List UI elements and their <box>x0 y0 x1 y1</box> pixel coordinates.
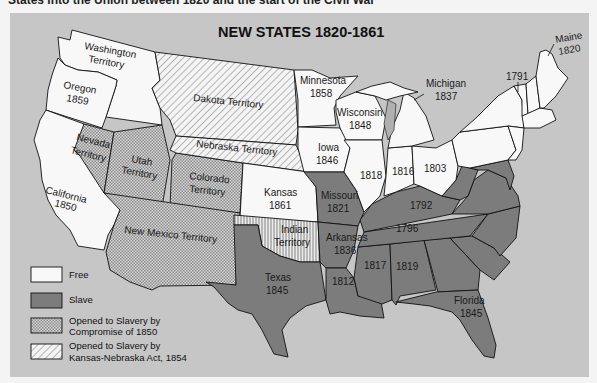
label-1817: 1817 <box>364 260 387 271</box>
legend-label-compromise-1: Opened to Slavery by <box>69 315 161 326</box>
label-indian: Indian <box>281 224 308 235</box>
label-michigan: Michigan <box>426 78 466 89</box>
legend-label-compromise-2: Compromise of 1850 <box>69 326 157 337</box>
legend-swatch-kansas-nebraska <box>31 344 62 359</box>
label-texas-sub: 1845 <box>266 285 289 296</box>
label-arkansas-sub: 1836 <box>334 245 357 256</box>
pointer-michigan <box>414 94 424 100</box>
legend-label-kn-2: Kansas-Nebraska Act, 1854 <box>69 352 187 363</box>
label-wisconsin: Wisconsin <box>337 107 383 118</box>
label-missouri-sub: 1821 <box>327 203 350 214</box>
label-1812: 1812 <box>332 276 355 287</box>
legend-label-free: Free <box>69 269 89 280</box>
label-florida: Florida <box>454 295 485 306</box>
label-maine-sub: 1820 <box>557 42 581 57</box>
label-iowa-sub: 1846 <box>316 155 339 166</box>
label-iowa: Iowa <box>318 142 340 153</box>
label-michigan-sub: 1837 <box>435 91 458 102</box>
map-title: NEW STATES 1820-1861 <box>218 24 384 40</box>
label-1818: 1818 <box>360 170 383 181</box>
label-1816: 1816 <box>392 166 415 177</box>
legend-label-slave: Slave <box>69 294 93 305</box>
label-kansas: Kansas <box>264 187 297 198</box>
label-missouri: Missouri <box>321 190 358 201</box>
label-texas: Texas <box>265 272 291 283</box>
label-1791: 1791 <box>506 71 529 82</box>
region-new-york <box>460 86 524 132</box>
legend-label-kn-1: Opened to Slavery by <box>69 340 161 351</box>
label-1792: 1792 <box>410 200 433 211</box>
us-map: NEW STATES 1820-1861 Washington Territor… <box>0 0 597 383</box>
label-florida-sub: 1845 <box>460 308 483 319</box>
label-indian-sub: Territory <box>274 237 310 248</box>
label-wisconsin-sub: 1848 <box>349 120 372 131</box>
label-1796: 1796 <box>396 223 419 234</box>
label-minnesota: Minnesota <box>300 75 347 86</box>
label-1803: 1803 <box>424 163 447 174</box>
label-1819: 1819 <box>396 261 419 272</box>
legend-swatch-compromise <box>31 318 62 333</box>
label-arkansas: Arkansas <box>326 232 368 243</box>
legend-swatch-free <box>31 267 62 282</box>
region-mississippi <box>354 244 392 304</box>
legend-swatch-slave <box>31 293 62 308</box>
region-maine <box>536 50 568 108</box>
label-minnesota-sub: 1858 <box>310 88 333 99</box>
label-kansas-sub: 1861 <box>269 200 292 211</box>
